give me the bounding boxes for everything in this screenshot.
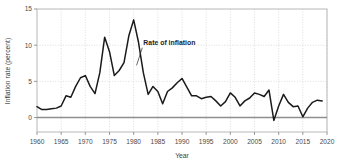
x-axis-title: Year <box>175 152 189 159</box>
y-tick-label: 15 <box>25 5 33 12</box>
x-tick-label: 1980 <box>126 138 141 145</box>
x-tick-label: 2015 <box>295 138 310 145</box>
annotation-rate-of-inflation: Rate of inflation <box>143 39 195 46</box>
x-tick-label: 2020 <box>320 138 335 145</box>
x-tick-label: 1995 <box>199 138 214 145</box>
x-tick-label: 1970 <box>78 138 93 145</box>
y-tick-label: 5 <box>28 78 32 85</box>
chart-canvas: 051015 196019651970197519801985199019952… <box>0 0 344 162</box>
x-tick-label: 1965 <box>54 138 69 145</box>
x-tick-label: 2000 <box>223 138 238 145</box>
x-tick-label: 2010 <box>271 138 286 145</box>
x-tick-label: 2005 <box>247 138 262 145</box>
inflation-rate-chart: 051015 196019651970197519801985199019952… <box>0 0 344 162</box>
y-tick-label: 10 <box>25 42 33 49</box>
x-tick-label: 1990 <box>175 138 190 145</box>
x-tick-labels: 1960196519701975198019851990199520002005… <box>30 138 335 145</box>
y-axis-title: Inflation rate (percent) <box>4 38 12 105</box>
x-tick-label: 1975 <box>102 138 117 145</box>
y-tick-label: 0 <box>28 114 32 121</box>
x-tick-label: 1960 <box>30 138 45 145</box>
x-tick-label: 1985 <box>150 138 165 145</box>
y-tick-labels: 051015 <box>25 5 33 121</box>
